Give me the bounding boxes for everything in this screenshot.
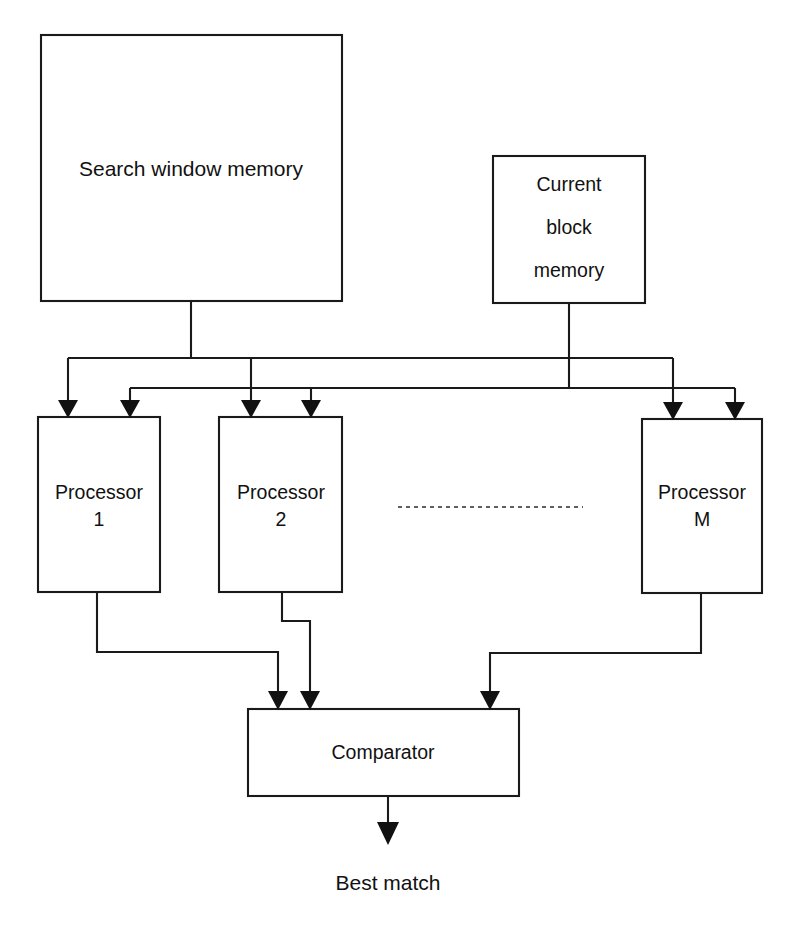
processor-1-output-line <box>97 592 278 693</box>
block-current-block-memory: Current block memory <box>493 156 645 303</box>
processor-2-label-line2: 2 <box>276 508 287 530</box>
search-window-memory-label: Search window memory <box>79 157 304 180</box>
processor-1-label-line1: Processor <box>55 481 143 503</box>
processor-2-box <box>219 417 342 592</box>
block-diagram: Search window memory Current block memor… <box>0 0 799 925</box>
current-block-memory-label-line1: Current <box>536 173 602 195</box>
diagram-canvas: Search window memory Current block memor… <box>0 0 799 925</box>
comparator-label: Comparator <box>332 741 435 763</box>
current-block-memory-label-line2: block <box>546 216 592 238</box>
arrow-into-comparator-from-processor-2 <box>300 691 320 710</box>
block-processor-1: Processor 1 <box>38 417 160 592</box>
best-match-label: Best match <box>335 871 440 894</box>
processor-1-label-line2: 1 <box>94 508 105 530</box>
current-block-memory-label-line3: memory <box>534 259 605 281</box>
arrow-into-processor-m-search <box>663 402 683 420</box>
arrow-into-processor-2-current <box>301 400 321 418</box>
processor-m-label-line1: Processor <box>658 481 746 503</box>
processor-m-label-line2: M <box>694 508 710 530</box>
arrow-into-processor-m-current <box>725 402 745 420</box>
block-comparator: Comparator <box>248 709 519 796</box>
arrow-into-comparator-from-processor-m <box>480 691 500 710</box>
block-processor-m: Processor M <box>642 419 762 593</box>
processor-m-box <box>642 419 762 593</box>
arrow-best-match <box>377 822 399 845</box>
processor-2-output-line <box>282 592 310 693</box>
processor-m-output-line <box>490 593 701 693</box>
arrow-into-processor-1-current <box>120 400 140 418</box>
block-processor-2: Processor 2 <box>219 417 342 592</box>
arrow-into-comparator-from-processor-1 <box>268 691 288 710</box>
processor-1-box <box>38 417 160 592</box>
arrow-into-processor-1-search <box>58 400 78 418</box>
arrow-into-processor-2-search <box>241 400 261 418</box>
processor-2-label-line1: Processor <box>237 481 325 503</box>
block-search-window-memory: Search window memory <box>41 35 342 301</box>
